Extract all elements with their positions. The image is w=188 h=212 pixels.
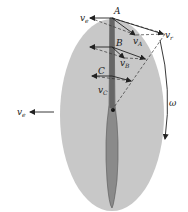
point-a-label: A: [113, 6, 121, 16]
propeller-velocity-diagram: A B C ve vr vA vB vC ve ω: [0, 0, 188, 212]
vr-label: vr: [165, 30, 174, 41]
blade-spar: [110, 18, 115, 108]
ve-left-label: ve: [17, 107, 26, 118]
omega-label: ω: [169, 98, 177, 108]
point-b-label: B: [115, 38, 123, 48]
point-c-label: C: [98, 66, 105, 76]
ve-top-label: ve: [80, 13, 89, 24]
